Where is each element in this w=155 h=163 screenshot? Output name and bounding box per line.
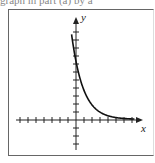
graph-plot [0,0,155,163]
y-axis-label: y [81,11,86,23]
x-axis-label: x [141,122,146,134]
y-axis-arrow-icon [73,17,79,24]
decay-curve [72,34,135,119]
